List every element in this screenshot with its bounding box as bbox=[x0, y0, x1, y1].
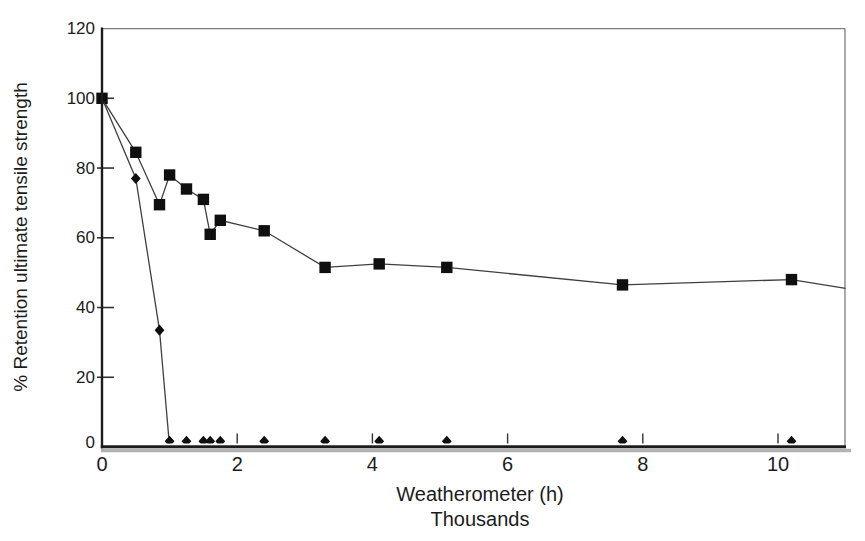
series-diamonds-marker bbox=[618, 436, 628, 447]
series-diamonds-marker bbox=[787, 436, 797, 447]
line-chart-canvas: 0246810020406080100120 Weatherometer (h)… bbox=[0, 0, 865, 541]
series-squares-marker bbox=[441, 262, 452, 273]
series-diamonds-marker bbox=[131, 173, 141, 184]
x-tick-label: 6 bbox=[502, 453, 513, 475]
series-squares-marker bbox=[181, 183, 192, 194]
series-squares-marker bbox=[259, 225, 270, 236]
series-squares-marker bbox=[786, 274, 797, 285]
series-squares-marker bbox=[617, 279, 628, 290]
series-squares-marker bbox=[205, 229, 216, 240]
y-tick-label: 80 bbox=[76, 159, 95, 178]
series-squares-marker bbox=[198, 194, 209, 205]
series-squares-marker bbox=[319, 262, 330, 273]
series-squares bbox=[96, 93, 845, 291]
series-diamonds-marker bbox=[374, 436, 384, 447]
series-squares-marker bbox=[130, 147, 141, 158]
y-tick-label: 60 bbox=[76, 228, 95, 247]
series-diamonds-marker bbox=[205, 436, 215, 447]
y-axis-title: % Retention ultimate tensile strength bbox=[10, 82, 31, 391]
series-diamonds-marker bbox=[320, 436, 330, 447]
series-squares-marker bbox=[164, 169, 175, 180]
series-diamonds-marker bbox=[215, 436, 225, 447]
chart: 0246810020406080100120 Weatherometer (h)… bbox=[0, 0, 865, 541]
x-tick-label: 10 bbox=[767, 453, 789, 475]
series-squares-marker bbox=[374, 258, 385, 269]
x-axis-title: Weatherometer (h) bbox=[396, 483, 563, 505]
x-axis-subtitle: Thousands bbox=[431, 508, 530, 530]
y-tick-label: 20 bbox=[76, 368, 95, 387]
series-squares-marker bbox=[215, 215, 226, 226]
series-squares-marker bbox=[154, 199, 165, 210]
series-squares-line bbox=[102, 98, 846, 288]
series-diamonds-marker bbox=[182, 436, 192, 447]
x-tick-label: 0 bbox=[96, 453, 107, 475]
y-tick-label: 0 bbox=[86, 433, 95, 452]
x-tick-label: 8 bbox=[637, 453, 648, 475]
series-diamonds-marker bbox=[155, 325, 165, 336]
series-diamonds-marker bbox=[259, 436, 269, 447]
y-tick-label: 120 bbox=[67, 19, 95, 38]
y-tick-label: 40 bbox=[76, 298, 95, 317]
series-diamonds-marker bbox=[165, 436, 175, 447]
y-tick-label: 100 bbox=[67, 89, 95, 108]
x-tick-label: 2 bbox=[232, 453, 243, 475]
x-tick-label: 4 bbox=[367, 453, 378, 475]
series-diamonds-marker bbox=[442, 436, 452, 447]
